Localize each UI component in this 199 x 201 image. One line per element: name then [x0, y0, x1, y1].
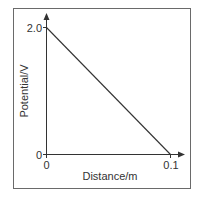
x-tick-label-0.1: 0.1 [163, 159, 178, 171]
x-axis: 0 0.1 Distance/m [43, 152, 185, 183]
y-axis-label: Potential/V [18, 64, 30, 118]
x-axis-arrow-icon [178, 152, 185, 158]
y-tick-label-0: 0 [36, 149, 42, 161]
chart: 2.0 0 Potential/V 0 0.1 Distance/m [0, 0, 199, 201]
y-axis: 2.0 0 Potential/V [18, 13, 50, 161]
y-tick-label-2: 2.0 [27, 22, 42, 34]
y-axis-arrow-icon [44, 13, 50, 20]
x-axis-label: Distance/m [82, 170, 137, 182]
potential-line [47, 28, 171, 155]
x-tick-label-0: 0 [43, 159, 49, 171]
